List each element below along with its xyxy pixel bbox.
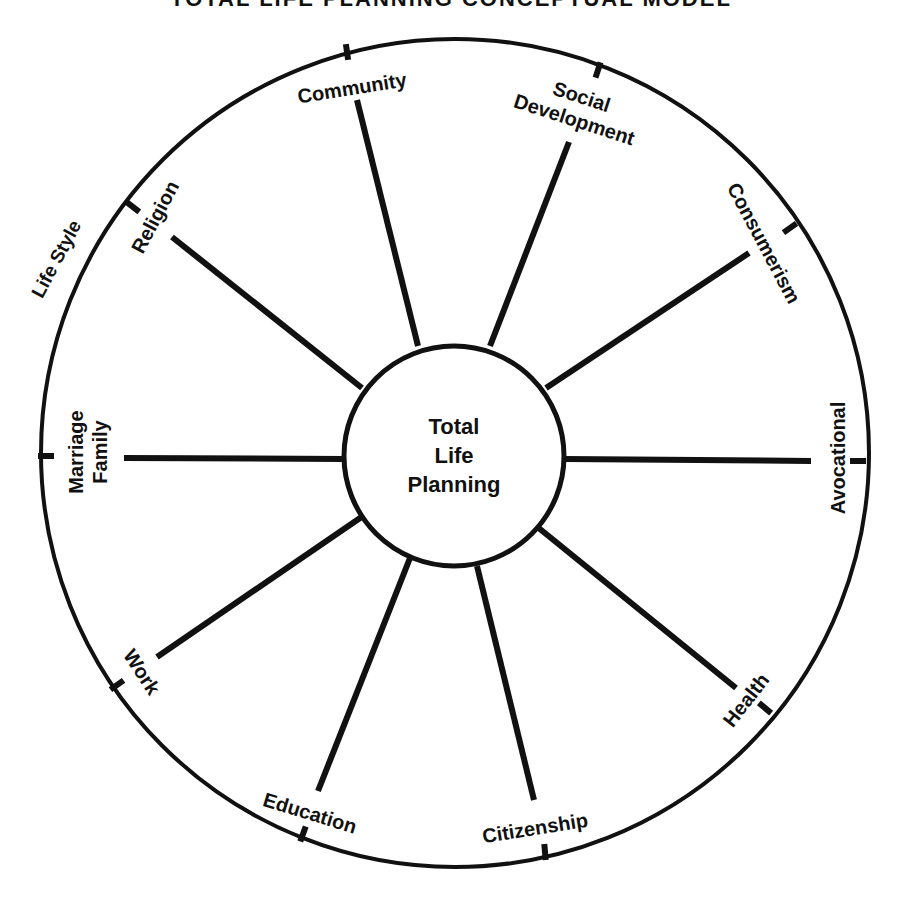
spoke-label-text: Community [296,68,409,107]
label-social-development: SocialDevelopment [511,67,645,150]
hub-label-line: Planning [408,472,501,497]
hub-label-line: Total [429,414,480,439]
rim-tick [38,453,54,459]
diagram-title: TOTAL LIFE PLANNING CONCEPTUAL MODEL [170,0,732,11]
spoke-line [172,237,362,388]
spoke-health [535,525,773,715]
label-education: Education [261,788,360,837]
spoke-line [565,459,811,461]
rim-tick [343,44,351,61]
spoke-line [477,566,534,800]
spoke-education [297,558,410,843]
label-marriage-family: MarriageFamily [65,410,111,493]
hub-label-line: Life [434,443,473,468]
spoke-label-text: Education [261,788,360,837]
life-planning-wheel-diagram: TOTAL LIFE PLANNING CONCEPTUAL MODEL Tot… [0,0,902,901]
spoke-label-text: Consumerism [723,179,805,307]
label-consumerism: Consumerism [723,179,805,307]
rim-tick [757,701,773,716]
rim-tick [850,458,866,464]
spoke-line [157,516,363,657]
rim-tick [125,200,141,215]
spoke-label-text: Family [89,419,111,483]
spoke-line [490,142,569,346]
rim-tick [782,221,799,235]
spoke-line [357,100,418,346]
label-citizenship: Citizenship [481,809,590,847]
spoke-avocational [565,458,866,464]
spoke-line [535,525,736,688]
label-community: Community [296,68,409,107]
spoke-line [124,458,343,459]
label-avocational: Avocational [827,402,849,515]
spoke-label-text: Citizenship [481,809,590,847]
spoke-label-text: Avocational [827,402,849,515]
spoke-label-text: Marriage [65,410,87,493]
spoke-line [546,253,749,388]
spoke-line [318,558,410,791]
